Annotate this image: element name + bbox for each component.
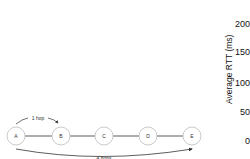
label-1-hop: 1 hop: [32, 115, 45, 121]
hop-diagram: A B C D E 1 hop 4 hops: [0, 0, 250, 159]
y-tick-50: 50: [230, 108, 250, 117]
node-e: E: [183, 127, 201, 145]
y-tick-100: 100: [230, 79, 250, 88]
arrow-4-hops: 4 hops: [16, 149, 192, 159]
node-c: C: [95, 127, 113, 145]
y-tick-150: 150: [230, 48, 250, 57]
label-4-hops: 4 hops: [96, 155, 112, 159]
node-b: B: [52, 127, 70, 145]
node-d: D: [139, 127, 157, 145]
node-label-d: D: [146, 133, 150, 139]
node-label-c: C: [102, 133, 106, 139]
y-tick-200: 200: [230, 20, 250, 29]
y-axis-title: Average RTT (ms): [224, 35, 234, 104]
y-tick-0: 0: [230, 137, 250, 146]
arrow-1-hop: 1 hop: [16, 115, 58, 124]
node-a: A: [7, 127, 25, 145]
